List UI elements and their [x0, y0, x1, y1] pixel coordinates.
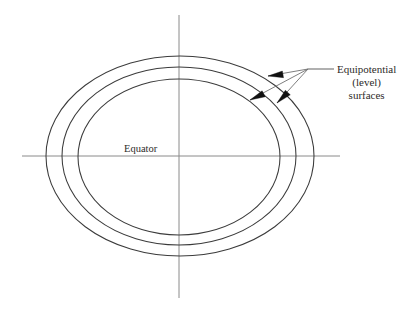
equipotential-surfaces-figure: Equator Equipotential (level) surfaces [0, 0, 410, 314]
callout-label-line-1: Equipotential [337, 63, 396, 75]
leader-arrow-outer-head [268, 71, 284, 78]
callout-label-line-2: (level) [352, 76, 381, 89]
leader-arrow-inner-head [250, 91, 265, 100]
diagram-canvas: Equator Equipotential (level) surfaces [0, 0, 410, 314]
callout-label-line-3: surfaces [349, 89, 385, 101]
equator-label: Equator [124, 143, 158, 154]
